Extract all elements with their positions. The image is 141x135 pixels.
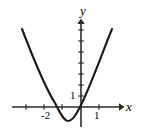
- x-axis-label: x: [126, 100, 132, 113]
- x-tick-label-neg-2: -2: [41, 110, 50, 121]
- y-axis-label: y: [80, 4, 86, 17]
- plot-canvas: [0, 0, 141, 135]
- y-axis-arrowhead: [77, 19, 84, 25]
- y-tick-label-1: 1: [70, 90, 76, 101]
- parabola-figure: y x -2 1 1: [0, 0, 141, 135]
- x-axis-arrowhead: [119, 103, 125, 111]
- x-tick-label-1: 1: [94, 110, 100, 121]
